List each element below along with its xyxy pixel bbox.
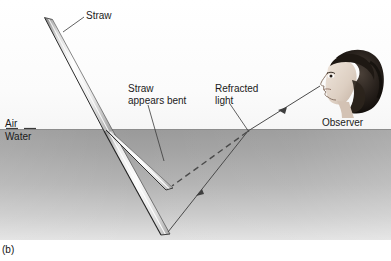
refracted-light-ray [168, 86, 320, 232]
straw-leader-line [63, 17, 84, 32]
observer-head [306, 46, 388, 118]
label-refracted-light: Refracted light [215, 83, 258, 106]
straw-above-water [45, 18, 114, 132]
ray-arrowhead-lower [196, 189, 204, 196]
label-observer: Observer [322, 117, 363, 129]
label-water: Water [5, 131, 31, 143]
refracted-leader-line [230, 104, 249, 132]
face [326, 60, 357, 105]
label-straw-appears-bent: Straw appears bent [128, 83, 186, 106]
eye-pupil [330, 75, 333, 78]
ray-arrowhead-upper [278, 107, 287, 114]
bent-leader-line [148, 105, 164, 161]
apparent-sight-line-dashed [172, 132, 247, 186]
label-air: Air [5, 118, 17, 130]
panel-label: (b) [2, 244, 14, 255]
refraction-figure: Straw Air Water Straw appears bent Refra… [0, 0, 391, 261]
label-straw: Straw [86, 10, 112, 22]
